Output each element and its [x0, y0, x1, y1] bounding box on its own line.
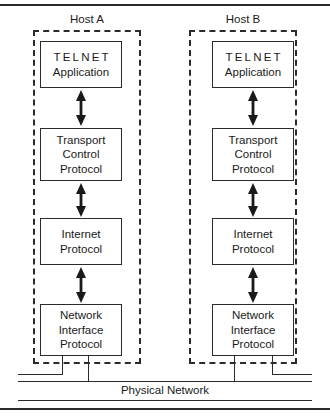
layer-line: Protocol	[232, 242, 274, 257]
layer-line: Protocol	[232, 162, 274, 177]
host-b-layer-telnet-application: TELNET Application	[212, 41, 294, 88]
layer-line: Interface	[59, 323, 104, 338]
host-a-layer-network-interface-protocol: Network Interface Protocol	[40, 304, 122, 356]
page-rule-bottom	[0, 408, 330, 410]
host-a-layer-telnet-application: TELNET Application	[40, 41, 122, 88]
page-rule-top	[0, 4, 330, 6]
layer-line: Application	[53, 65, 109, 80]
host-a-label: Host A	[33, 12, 141, 26]
layer-line: TELNET	[51, 50, 110, 65]
host-b-arrow-transport-internet	[246, 183, 260, 217]
layer-line: Protocol	[60, 162, 102, 177]
physical-network-bus-top	[18, 381, 312, 382]
host-b-arrow-internet-network-interface	[246, 267, 260, 303]
host-b-layer-internet-protocol: Internet Protocol	[212, 218, 294, 265]
layer-line: Application	[225, 65, 281, 80]
layer-line: Protocol	[60, 337, 102, 352]
physical-network-label: Physical Network	[0, 383, 330, 397]
host-a-arrow-transport-internet	[74, 183, 88, 217]
layer-line: Protocol	[60, 242, 102, 257]
host-a-connector-left-horizontal	[18, 374, 63, 375]
layer-line: TELNET	[223, 50, 282, 65]
host-a-layer-internet-protocol: Internet Protocol	[40, 218, 122, 265]
host-b-arrow-application-transport	[246, 90, 260, 126]
host-b-layer-transport-control-protocol: Transport Control Protocol	[212, 128, 294, 181]
layer-line: Internet	[62, 227, 101, 242]
host-b-layer-network-interface-protocol: Network Interface Protocol	[212, 304, 294, 356]
host-a-connector-right-vertical	[88, 356, 89, 381]
layer-line: Transport	[229, 133, 278, 148]
host-b-label: Host B	[189, 12, 297, 26]
layer-line: Control	[62, 147, 99, 162]
layer-line: Transport	[57, 133, 106, 148]
layer-line: Network	[232, 308, 274, 323]
host-a-arrow-application-transport	[74, 90, 88, 126]
layer-line: Protocol	[232, 337, 274, 352]
protocol-stack-diagram: Host A TELNET Application Transport Cont…	[0, 0, 330, 416]
host-a-connector-left-vertical	[62, 356, 63, 374]
host-a-layer-transport-control-protocol: Transport Control Protocol	[40, 128, 122, 181]
host-a-arrow-internet-network-interface	[74, 267, 88, 303]
host-b-connector-right-horizontal	[272, 374, 312, 375]
layer-line: Internet	[234, 227, 273, 242]
physical-network-bus-bottom	[18, 400, 312, 401]
host-b-connector-right-vertical	[272, 356, 273, 374]
layer-line: Network	[60, 308, 102, 323]
layer-line: Interface	[231, 323, 276, 338]
host-b-connector-left-vertical	[234, 356, 235, 381]
layer-line: Control	[234, 147, 271, 162]
